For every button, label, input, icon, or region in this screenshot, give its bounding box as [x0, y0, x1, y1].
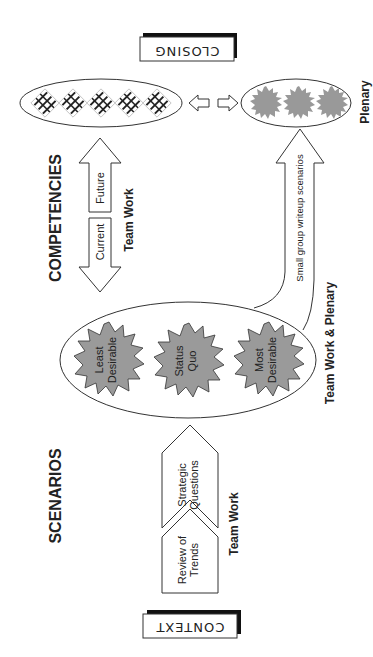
exchange-arrows [189, 95, 238, 111]
closing-label-box: CLOSING [140, 33, 237, 61]
scenario-outcomes-group: Least Desirable Status Quo Most Desirabl… [60, 302, 316, 418]
plenary-group: Plenary [241, 79, 372, 127]
context-label-box: CONTEXT [143, 610, 241, 638]
right-arrow-icon [218, 95, 238, 111]
steps-caption: Team Work [227, 492, 241, 556]
current-label: Current [94, 224, 106, 261]
writeup-arrow: Small group writeup scenarios [254, 129, 324, 330]
plenary-caption: Plenary [358, 80, 372, 124]
step-label-line2: Trends [188, 543, 200, 577]
context-label: CONTEXT [156, 620, 225, 635]
left-arrow-icon [189, 95, 209, 111]
outcome-label-line2: Quo [186, 351, 198, 372]
competencies-heading: COMPETENCIES [47, 154, 64, 282]
outcomes-caption: Team Work & Plenary [323, 282, 337, 405]
step-review-of-trends: Review of Trends [162, 509, 218, 593]
competencies-caption: Team Work [122, 188, 136, 252]
competency-future-current-arrow: Future Current [79, 138, 121, 292]
future-label: Future [94, 172, 106, 204]
step-label-line1: Review of [176, 535, 188, 584]
outcome-label-line2: Desirable [266, 337, 278, 383]
outcome-label-line1: Least [93, 347, 105, 374]
step-label-line1: Strategic [176, 463, 188, 507]
outcome-label-line2: Desirable [106, 337, 118, 383]
outcome-label-line1: Status [173, 345, 185, 377]
writeup-arrow-label: Small group writeup scenarios [294, 154, 305, 282]
competency-icons-group [20, 79, 182, 127]
process-diagram: CLOSING Plenary COMPETENCIES Future Curr… [0, 0, 373, 657]
scenarios-heading: SCENARIOS [47, 448, 64, 543]
step-label-line2: Questions [188, 460, 200, 510]
outcome-label-line1: Most [253, 348, 265, 372]
closing-label: CLOSING [155, 44, 220, 59]
